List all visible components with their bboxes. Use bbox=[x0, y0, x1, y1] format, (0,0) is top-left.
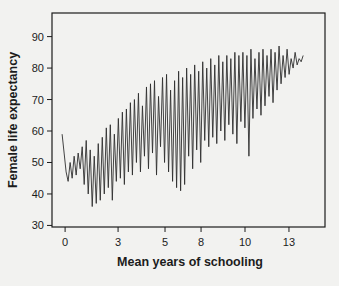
data-line bbox=[62, 46, 303, 207]
y-tick-label: 80 bbox=[32, 62, 44, 74]
y-axis-ticks: 30405060708090 bbox=[32, 31, 52, 232]
y-tick-label: 50 bbox=[32, 156, 44, 168]
x-tick-label: 3 bbox=[115, 236, 121, 248]
y-tick-label: 40 bbox=[32, 188, 44, 200]
y-tick-label: 70 bbox=[32, 94, 44, 106]
x-tick-label: 10 bbox=[239, 236, 251, 248]
y-axis-title: Female life expectancy bbox=[6, 52, 20, 188]
y-tick-label: 90 bbox=[32, 31, 44, 43]
x-tick-label: 0 bbox=[62, 236, 68, 248]
line-chart-canvas: 30405060708090 03581013 Mean years of sc… bbox=[0, 0, 339, 286]
y-tick-label: 60 bbox=[32, 125, 44, 137]
chart: 30405060708090 03581013 Mean years of sc… bbox=[0, 0, 339, 286]
x-tick-label: 13 bbox=[283, 236, 295, 248]
x-tick-label: 5 bbox=[162, 236, 168, 248]
x-axis-title: Mean years of schooling bbox=[117, 255, 263, 269]
x-axis-ticks: 03581013 bbox=[62, 227, 295, 248]
x-tick-label: 8 bbox=[198, 236, 204, 248]
y-tick-label: 30 bbox=[32, 219, 44, 231]
